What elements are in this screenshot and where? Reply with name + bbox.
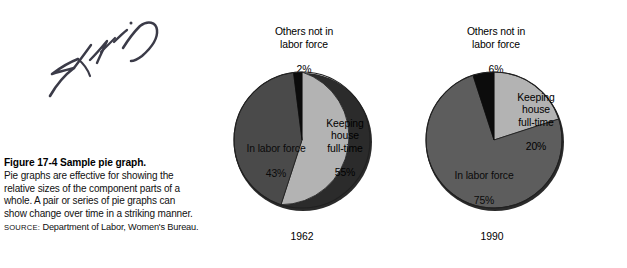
figure-caption-title: Figure 17-4 Sample pie graph.	[4, 156, 200, 169]
slice-label-text-keeping-house-1962: Keeping house full-time	[326, 118, 363, 153]
slice-value-keeping-house-1962: 55%	[335, 167, 356, 178]
figure-caption-body: Pie graphs are effective for showing the…	[4, 170, 200, 220]
slice-value-in-labor-force-1990: 75%	[474, 195, 495, 206]
callout-others-label-1962: Others not in labor force	[275, 26, 333, 49]
slice-label-keeping-house-1990: Keeping house full-time 20%	[498, 80, 574, 153]
source-label: Source:	[4, 223, 40, 232]
slice-label-text-in-labor-force-1962: In labor force	[246, 143, 305, 154]
year-label-1990: 1990	[452, 231, 532, 242]
callout-others-label-1990: Others not in labor force	[467, 26, 525, 49]
source-text: Department of Labor, Women's Bureau.	[42, 222, 198, 232]
pie-figure-1962: Others not in labor force 2% In labor fo…	[212, 0, 392, 268]
slice-value-in-labor-force-1962: 43%	[266, 168, 287, 179]
handwritten-skip-note	[44, 12, 169, 102]
handwriting-icon	[44, 12, 169, 102]
pie-figure-1990: Others not in labor force 6% Keeping hou…	[404, 0, 584, 268]
figure-caption-block: Figure 17-4 Sample pie graph. Pie graphs…	[4, 156, 200, 234]
slice-label-keeping-house-1962: Keeping house full-time 55%	[310, 106, 380, 179]
figure-source-line: Source: Department of Labor, Women's Bur…	[4, 221, 200, 234]
year-label-1962: 1962	[262, 231, 342, 242]
slice-label-in-labor-force-1990: In labor force 75%	[432, 158, 536, 207]
slice-value-keeping-house-1990: 20%	[526, 141, 547, 152]
slice-label-text-keeping-house-1990: Keeping house full-time	[517, 92, 554, 127]
slice-label-text-in-labor-force-1990: In labor force	[454, 170, 513, 181]
